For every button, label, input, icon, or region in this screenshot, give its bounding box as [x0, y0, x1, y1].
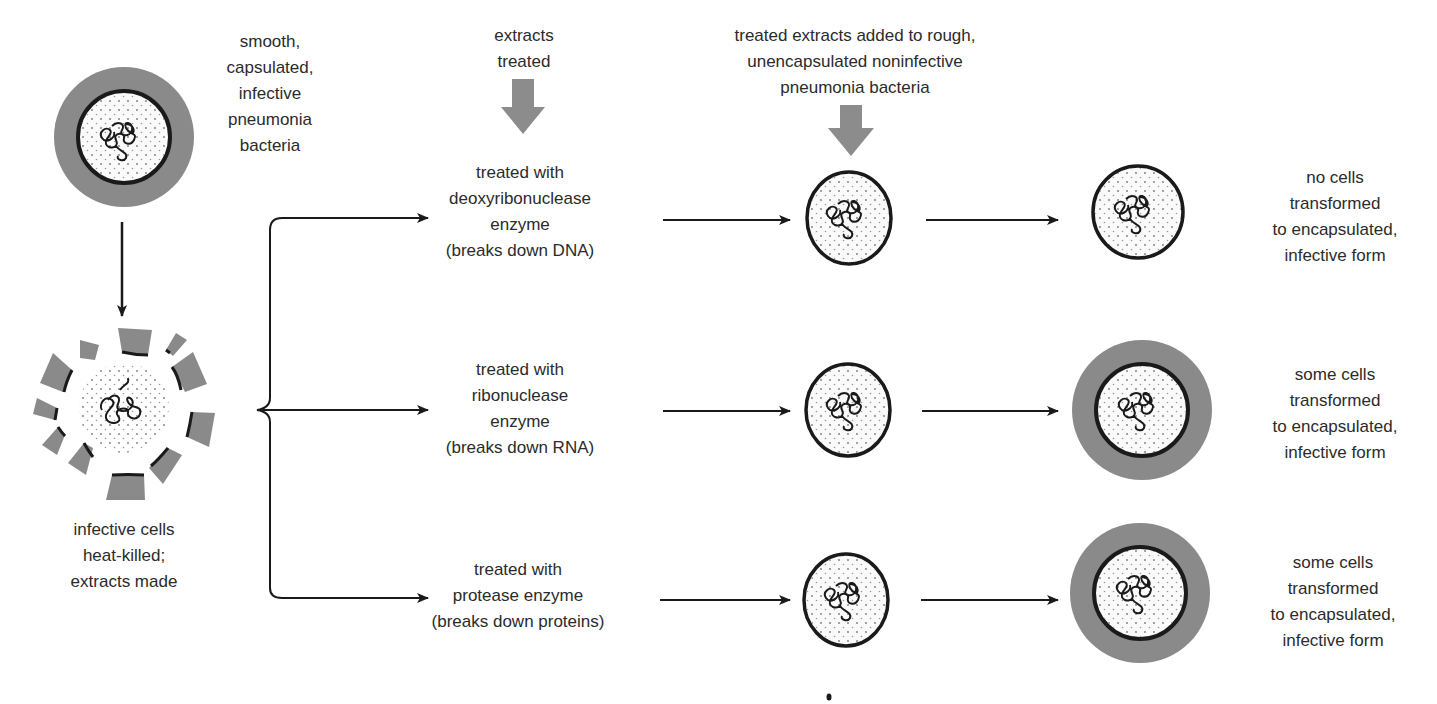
label-line: to encapsulated, — [1255, 217, 1415, 243]
label-line: infective cells — [54, 517, 194, 543]
label-line: infective form — [1253, 628, 1413, 654]
treatment-label-protease: treated with protease enzyme (breaks dow… — [418, 557, 618, 635]
label-line: transformed — [1255, 191, 1415, 217]
heat-killed-bacterium — [33, 328, 215, 500]
added-extracts-big-arrow — [828, 105, 874, 156]
label-line: treated with — [430, 160, 610, 186]
label-line: transformed — [1253, 576, 1413, 602]
rough-bacterium-row2 — [806, 364, 890, 456]
result-bacterium-row1-unencapsulated — [1093, 166, 1183, 258]
label-line: extracts — [464, 23, 584, 49]
label-line: deoxyribonuclease — [430, 186, 610, 212]
label-line: infective — [210, 81, 330, 107]
label-line: (breaks down RNA) — [430, 435, 610, 461]
rough-bacterium-row1 — [807, 172, 891, 264]
branch-brace — [257, 218, 428, 598]
result-bacterium-row3-encapsulated — [1070, 523, 1210, 663]
label-line: to encapsulated, — [1255, 414, 1415, 440]
label-line: extracts made — [54, 569, 194, 595]
label-line: heat-killed; — [54, 543, 194, 569]
label-line: pneumonia — [210, 107, 330, 133]
extracts-treated-label: extracts treated — [464, 23, 584, 75]
label-line: some cells — [1253, 550, 1413, 576]
start-label: smooth, capsulated, infective pneumonia … — [210, 29, 330, 159]
label-line: treated with — [418, 557, 618, 583]
label-line: capsulated, — [210, 55, 330, 81]
label-line: transformed — [1255, 388, 1415, 414]
label-line: ribonuclease — [430, 383, 610, 409]
label-line: pneumonia bacteria — [690, 75, 1020, 101]
label-line: some cells — [1255, 362, 1415, 388]
result-label-row2: some cells transformed to encapsulated, … — [1255, 362, 1415, 466]
label-line: treated extracts added to rough, — [690, 23, 1020, 49]
label-line: treated — [464, 49, 584, 75]
label-line: smooth, — [210, 29, 330, 55]
label-line: to encapsulated, — [1253, 602, 1413, 628]
label-line: enzyme — [430, 212, 610, 238]
label-line: protease enzyme — [418, 583, 618, 609]
result-label-row3: some cells transformed to encapsulated, … — [1253, 550, 1413, 654]
label-line: bacteria — [210, 133, 330, 159]
treatment-label-rnase: treated with ribonuclease enzyme (breaks… — [430, 357, 610, 461]
label-line: (breaks down proteins) — [418, 609, 618, 635]
result-label-row1: no cells transformed to encapsulated, in… — [1255, 165, 1415, 269]
heat-killed-label: infective cells heat-killed; extracts ma… — [54, 517, 194, 595]
label-line: no cells — [1255, 165, 1415, 191]
added-to-rough-label: treated extracts added to rough, unencap… — [690, 23, 1020, 101]
label-line: enzyme — [430, 409, 610, 435]
label-line: infective form — [1255, 440, 1415, 466]
label-line: unencapsulated noninfective — [690, 49, 1020, 75]
extracts-treated-big-arrow — [501, 79, 545, 134]
label-line: (breaks down DNA) — [430, 238, 610, 264]
label-line: treated with — [430, 357, 610, 383]
result-bacterium-row2-encapsulated — [1072, 340, 1212, 480]
label-line: infective form — [1255, 243, 1415, 269]
treatment-label-dnase: treated with deoxyribonuclease enzyme (b… — [430, 160, 610, 264]
stray-mark — [827, 694, 832, 701]
capsulated-bacterium — [54, 67, 194, 207]
rough-bacterium-row3 — [804, 554, 888, 646]
